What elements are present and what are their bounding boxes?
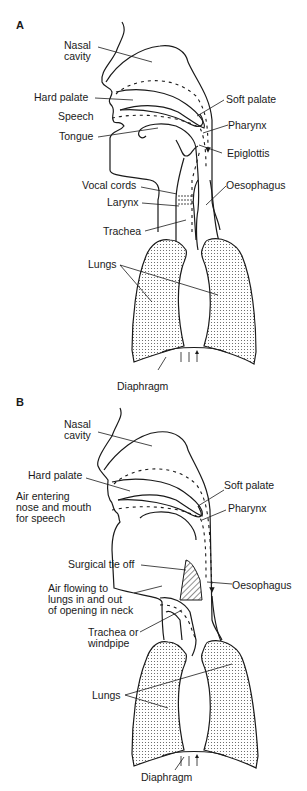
label-oesophagus-b: Oesophagus	[232, 580, 292, 591]
label-pharynx-a: Pharynx	[228, 120, 267, 131]
panel-a-label: A	[16, 19, 24, 31]
label-speech-a: Speech	[58, 111, 94, 122]
label-diaphragm-b: Diaphragm	[141, 772, 192, 783]
label-air-entering-b-3: for speech	[16, 513, 65, 524]
label-soft-palate-b: Soft palate	[224, 480, 274, 491]
label-air-flowing-b-3: of opening in neck	[48, 605, 133, 616]
label-surgical-tie-off-b: Surgical tie off	[68, 559, 134, 570]
label-epiglottis-a: Epiglottis	[227, 148, 270, 159]
label-pharynx-b: Pharynx	[228, 503, 267, 514]
label-tongue-a: Tongue	[59, 131, 93, 142]
label-lungs-b: Lungs	[92, 690, 121, 701]
label-nasal-cavity-a-2: cavity	[64, 51, 91, 62]
label-lungs-a: Lungs	[88, 259, 117, 270]
label-hard-palate-b: Hard palate	[28, 470, 82, 481]
label-diaphragm-a: Diaphragm	[117, 381, 168, 392]
label-trachea-a: Trachea	[103, 226, 141, 237]
panel-b-label: B	[16, 396, 24, 408]
label-larynx-a: Larynx	[107, 197, 139, 208]
label-soft-palate-a: Soft palate	[226, 94, 276, 105]
label-hard-palate-a: Hard palate	[34, 92, 88, 103]
label-trachea-b-2: windpipe	[88, 638, 129, 649]
label-oesophagus-a: Oesophagus	[226, 180, 286, 191]
label-nasal-cavity-b-2: cavity	[64, 430, 91, 441]
label-vocal-cords-a: Vocal cords	[82, 180, 136, 191]
